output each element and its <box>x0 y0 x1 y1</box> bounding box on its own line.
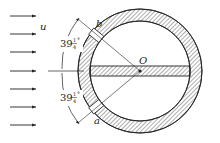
flow-arrows <box>10 16 36 125</box>
svg-text:°: ° <box>77 36 80 43</box>
svg-text:4: 4 <box>73 44 76 50</box>
center-point <box>138 69 141 72</box>
flow-velocity-label: u <box>40 21 46 32</box>
point-b-label: b <box>96 18 102 29</box>
angle-label-upper: 39 1 4 ° <box>59 36 83 52</box>
point-a-label: a <box>94 115 100 126</box>
center-label: O <box>139 55 147 66</box>
svg-text:4: 4 <box>73 98 76 104</box>
svg-text:39: 39 <box>60 92 73 103</box>
svg-text:39: 39 <box>60 38 73 49</box>
svg-text:°: ° <box>77 90 80 97</box>
diagram-canvas: u O b a 39 1 4 ° 39 1 4 ° <box>0 0 220 143</box>
svg-text:1: 1 <box>73 37 76 43</box>
svg-text:1: 1 <box>73 91 76 97</box>
angle-label-lower: 39 1 4 ° <box>59 90 83 106</box>
